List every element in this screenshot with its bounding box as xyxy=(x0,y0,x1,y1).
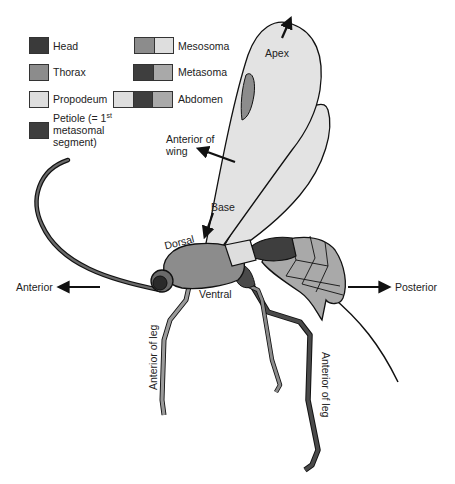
legend-label-propodeum: Propodeum xyxy=(53,93,107,105)
legend-swatch-mesosoma xyxy=(134,37,174,54)
legend-label-petiole: Petiole (= 1st metasomal segment) xyxy=(53,112,112,148)
legend-swatch-petiole xyxy=(29,122,49,139)
label-anterior-of-leg-hind: Anterior of leg xyxy=(320,352,332,417)
legend-swatch-abdomen xyxy=(113,91,173,108)
label-anterior-of-wing: Anterior of wing xyxy=(166,133,214,157)
legend-label-thorax: Thorax xyxy=(53,66,86,78)
label-ventral: Ventral xyxy=(199,288,232,300)
legend-label-head: Head xyxy=(53,40,78,52)
legend-swatch-metasoma xyxy=(133,64,173,81)
legend-swatch-head xyxy=(29,37,49,54)
legend-swatch-thorax xyxy=(29,64,49,81)
compound-eye xyxy=(153,276,167,290)
label-posterior: Posterior xyxy=(395,281,437,293)
ovipositor xyxy=(330,295,398,382)
label-apex: Apex xyxy=(265,47,289,59)
antenna xyxy=(37,160,160,290)
petiole xyxy=(252,237,296,261)
label-anterior: Anterior xyxy=(16,281,53,293)
legend-label-metasoma: Metasoma xyxy=(178,66,227,78)
legend-label-abdomen: Abdomen xyxy=(178,93,223,105)
legend-swatch-propodeum xyxy=(29,91,49,108)
legend-label-mesosoma: Mesosoma xyxy=(178,40,229,52)
label-anterior-of-leg-front: Anterior of leg xyxy=(147,325,159,390)
label-base: Base xyxy=(211,201,235,213)
